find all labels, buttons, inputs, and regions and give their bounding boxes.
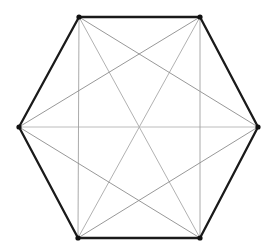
hexagon-complete-graph <box>0 0 275 251</box>
vertex-bottom-left <box>75 235 80 240</box>
upper-left-edge <box>19 17 79 127</box>
short-diagonal-tr-left <box>19 17 200 127</box>
vertex-top-left <box>76 14 81 19</box>
lower-right-edge <box>200 127 258 238</box>
short-diagonal-tl-right <box>79 17 258 127</box>
vertex-left <box>16 124 21 129</box>
vertex-bottom-right <box>197 235 202 240</box>
short-diagonal-right-bl <box>78 127 258 238</box>
short-diagonal-tl-bl <box>78 17 79 238</box>
vertex-right <box>255 124 260 129</box>
short-diagonal-br-left <box>19 127 200 238</box>
figure-canvas <box>0 0 275 251</box>
vertex-top-right <box>197 14 202 19</box>
diagonal-edge-group <box>19 17 258 238</box>
lower-left-edge <box>19 127 78 238</box>
upper-right-edge <box>200 17 258 127</box>
